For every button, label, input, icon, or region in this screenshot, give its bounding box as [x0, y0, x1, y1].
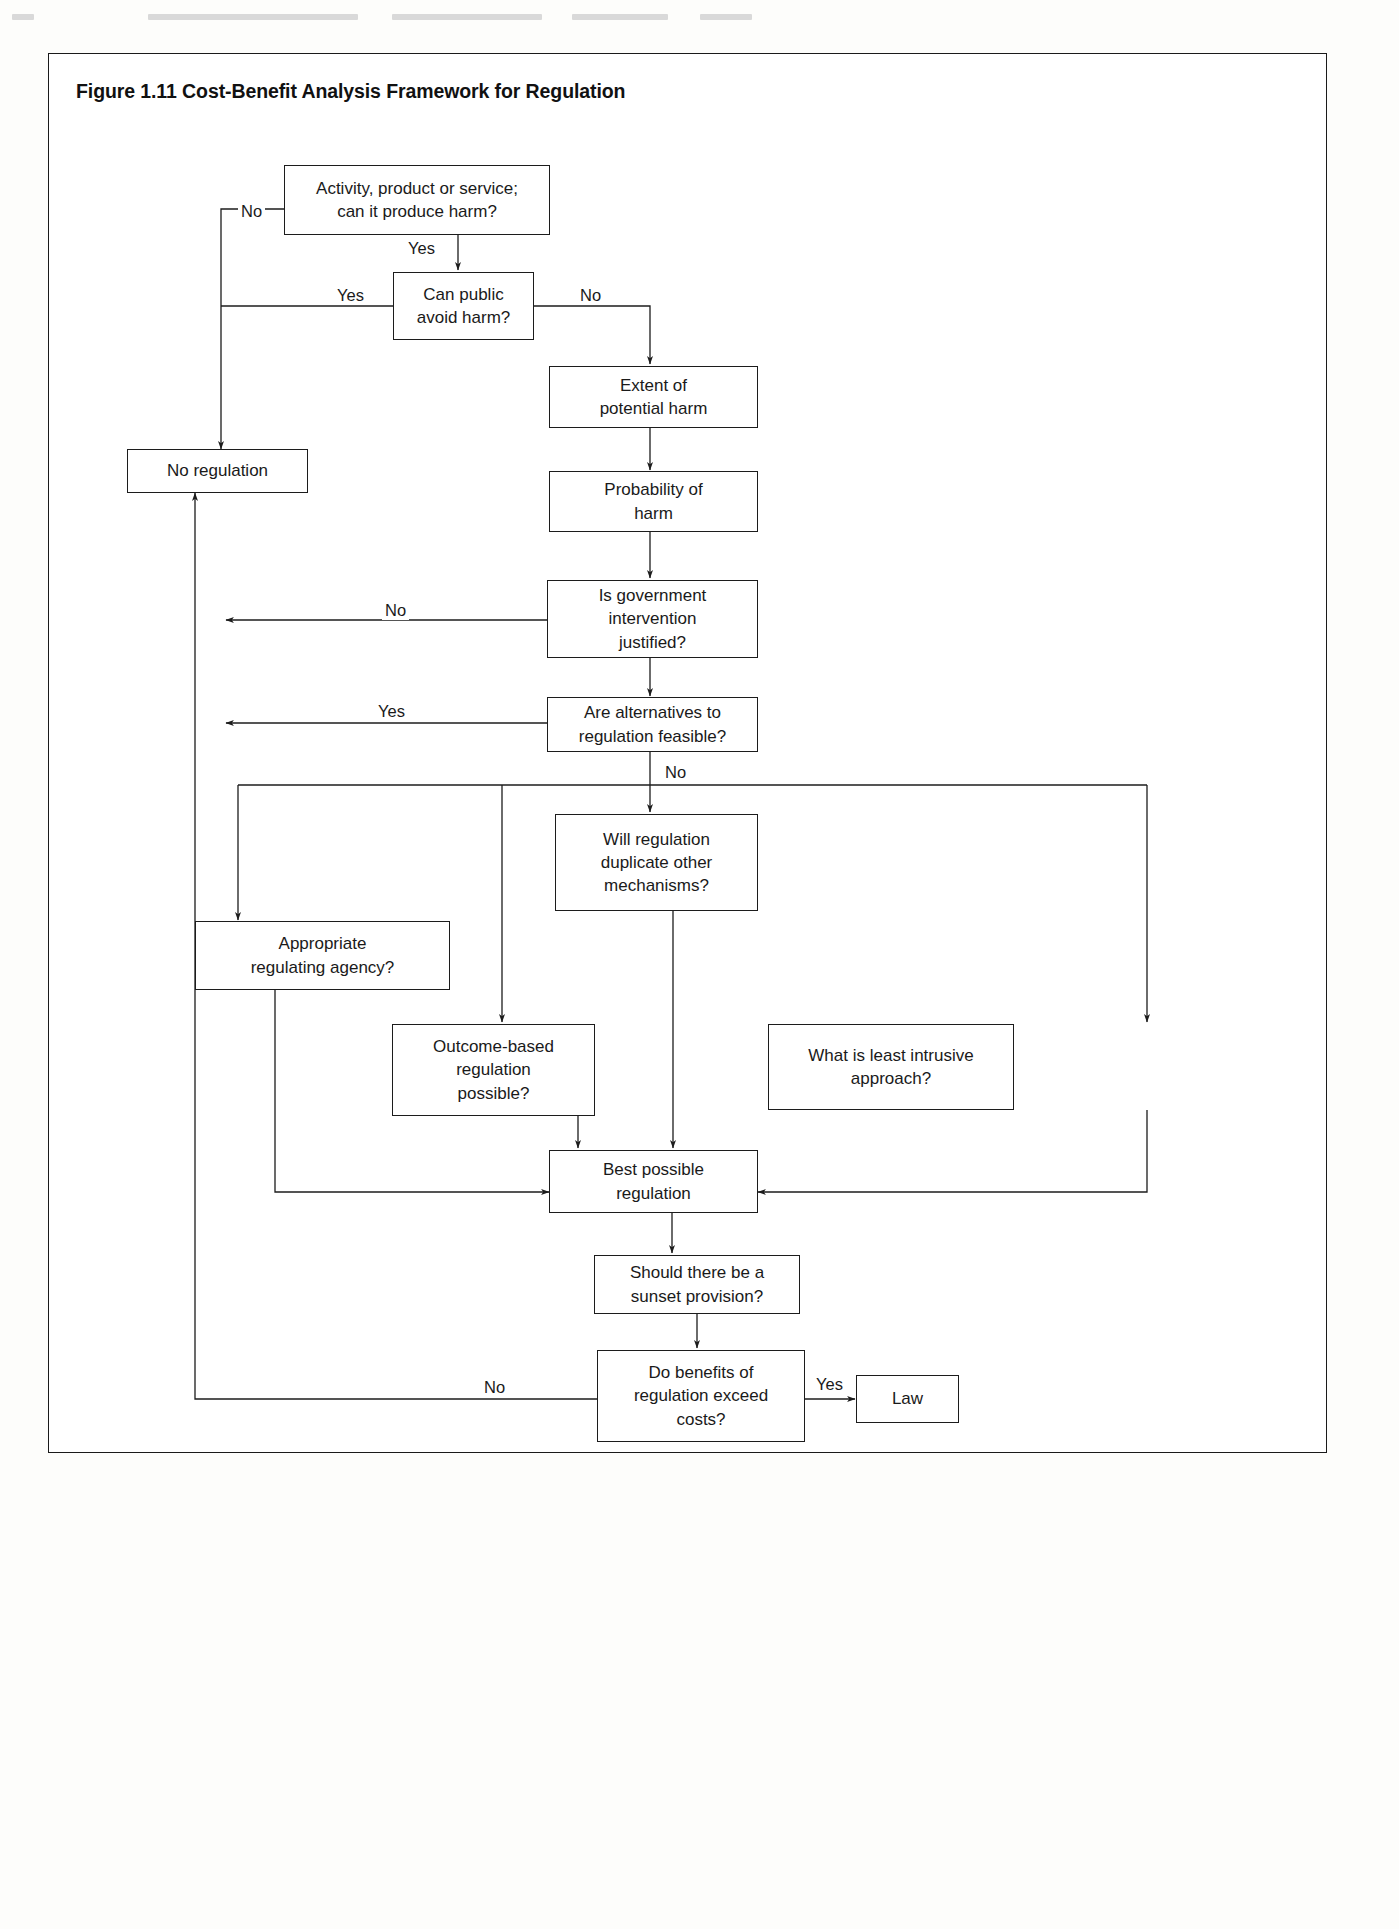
node-extent-line1: Extent of — [620, 376, 687, 395]
node-benefits-line2: regulation exceed — [634, 1386, 768, 1405]
node-outcome-line3: possible? — [458, 1084, 530, 1103]
node-best-line2: regulation — [616, 1184, 691, 1203]
node-avoid-line2: avoid harm? — [417, 308, 511, 327]
node-what-is-least-intrusive-approach[interactable]: What is least intrusive approach? — [768, 1024, 1014, 1110]
node-law-line1: Law — [892, 1389, 923, 1408]
edge-label-alternatives-no: No — [662, 763, 689, 782]
edge-label-benefits-yes: Yes — [813, 1375, 846, 1394]
node-benefits-line1: Do benefits of — [649, 1363, 754, 1382]
page-background: Figure 1.11 Cost-Benefit Analysis Framew… — [0, 0, 1399, 1929]
edge-label-intervention-no: No — [382, 601, 409, 620]
node-probability-line1: Probability of — [604, 480, 702, 499]
node-alternatives-line1: Are alternatives to — [584, 703, 721, 722]
node-probability-line2: harm — [634, 504, 673, 523]
edge-label-activity-no: No — [238, 202, 265, 221]
node-benefits-line3: costs? — [676, 1410, 725, 1429]
node-duplicate-line2: duplicate other — [601, 853, 713, 872]
node-intervention-line3: justified? — [619, 633, 686, 652]
edge-label-alternatives-yes: Yes — [375, 702, 408, 721]
node-appropriate-regulating-agency[interactable]: Appropriate regulating agency? — [195, 921, 450, 990]
node-duplicate-line1: Will regulation — [603, 830, 710, 849]
node-best-possible-regulation[interactable]: Best possible regulation — [549, 1150, 758, 1213]
node-activity-line1: Activity, product or service; — [316, 179, 518, 198]
node-sunset-line2: sunset provision? — [631, 1287, 763, 1306]
node-is-government-intervention-justified[interactable]: Is government intervention justified? — [547, 580, 758, 658]
node-agency-line1: Appropriate — [279, 934, 367, 953]
node-probability-of-harm[interactable]: Probability of harm — [549, 471, 758, 532]
node-will-regulation-duplicate-other-mechanisms[interactable]: Will regulation duplicate other mechanis… — [555, 814, 758, 911]
node-duplicate-line3: mechanisms? — [604, 876, 709, 895]
node-outcome-line2: regulation — [456, 1060, 531, 1079]
node-outcome-based-regulation-possible[interactable]: Outcome-based regulation possible? — [392, 1024, 595, 1116]
node-law[interactable]: Law — [856, 1375, 959, 1423]
node-extent-line2: potential harm — [600, 399, 708, 418]
node-are-alternatives-to-regulation-feasible[interactable]: Are alternatives to regulation feasible? — [547, 697, 758, 752]
node-avoid-line1: Can public — [423, 285, 503, 304]
node-sunset-line1: Should there be a — [630, 1263, 764, 1282]
node-intrusive-line1: What is least intrusive — [808, 1046, 973, 1065]
node-outcome-line1: Outcome-based — [433, 1037, 554, 1056]
edge-label-avoid-no: No — [577, 286, 604, 305]
edge-label-activity-yes: Yes — [405, 239, 438, 258]
node-best-line1: Best possible — [603, 1160, 704, 1179]
node-can-public-avoid-harm[interactable]: Can public avoid harm? — [393, 272, 534, 340]
node-alternatives-line2: regulation feasible? — [579, 727, 726, 746]
node-intervention-line2: intervention — [609, 609, 697, 628]
node-noreg-line1: No regulation — [167, 461, 268, 480]
node-intrusive-line2: approach? — [851, 1069, 931, 1088]
edge-label-avoid-yes: Yes — [334, 286, 367, 305]
node-activity[interactable]: Activity, product or service; can it pro… — [284, 165, 550, 235]
node-extent-of-potential-harm[interactable]: Extent of potential harm — [549, 366, 758, 428]
node-no-regulation[interactable]: No regulation — [127, 449, 308, 493]
node-should-there-be-a-sunset-provision[interactable]: Should there be a sunset provision? — [594, 1255, 800, 1314]
node-do-benefits-of-regulation-exceed-costs[interactable]: Do benefits of regulation exceed costs? — [597, 1350, 805, 1442]
node-agency-line2: regulating agency? — [251, 958, 395, 977]
edge-label-benefits-no: No — [481, 1378, 508, 1397]
node-intervention-line1: Is government — [599, 586, 707, 605]
node-activity-line2: can it produce harm? — [337, 202, 497, 221]
